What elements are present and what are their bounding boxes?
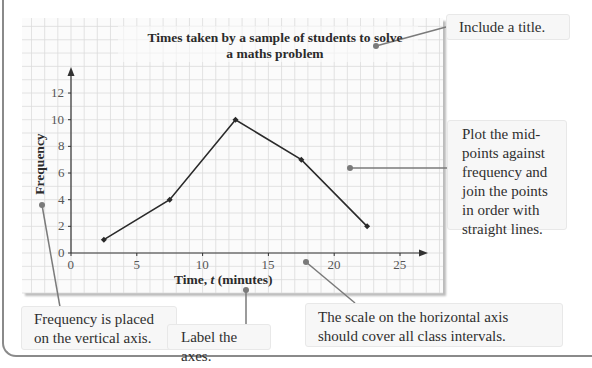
x-tick-label: 10 [196, 257, 209, 273]
pointer-scale-dot [303, 259, 309, 265]
x-label-text: Time, [174, 272, 211, 287]
x-tick-label: 0 [68, 257, 75, 273]
y-tick-label: 6 [58, 165, 65, 181]
y-tick-label: 4 [58, 192, 65, 208]
x-tick-label: 5 [133, 257, 140, 273]
y-tick-label: 10 [51, 112, 64, 128]
note-line: Frequency is placed [34, 310, 176, 329]
note-line: Plot the mid- [462, 125, 566, 144]
note-plot-midpoints: Plot the mid- points against frequency a… [447, 120, 567, 230]
y-tick-label: 0 [58, 245, 65, 261]
y-axis-arrow-icon [68, 67, 75, 76]
note-line: should cover all class intervals. [318, 327, 562, 346]
note-include-title: Include a title. [446, 14, 570, 40]
frequency-polygon-line [104, 120, 367, 240]
note-line: join the points [462, 182, 566, 201]
x-label-units: (minutes) [214, 272, 272, 287]
note-label-axes: Label the axes. [167, 324, 271, 350]
note-horizontal-scale: The scale on the horizontal axis should … [305, 303, 563, 347]
note-line: The scale on the horizontal axis [318, 308, 562, 327]
y-tick-label: 12 [51, 85, 64, 101]
y-axis-label: Frequency [32, 114, 48, 214]
chart-title-line-1: Times taken by a sample of students to s… [130, 30, 420, 46]
x-tick-label: 20 [327, 257, 340, 273]
note-line: straight lines. [462, 220, 566, 239]
note-line: points against [462, 144, 566, 163]
note-text: Include a title. [459, 19, 545, 35]
note-line: frequency and [462, 163, 566, 182]
note-line: in order with [462, 201, 566, 220]
x-tick-label: 15 [262, 257, 275, 273]
note-line: on the vertical axis. [34, 329, 176, 348]
y-tick-label: 8 [58, 138, 65, 154]
chart-title: Times taken by a sample of students to s… [130, 30, 420, 62]
pointer-plot-dot [347, 165, 353, 171]
note-frequency-vertical: Frequency is placed on the vertical axis… [21, 306, 177, 350]
x-tick-label: 25 [393, 257, 406, 273]
x-axis-label: Time, t (minutes) [174, 272, 272, 288]
chart-title-line-2: a maths problem [130, 46, 420, 62]
y-tick-label: 2 [58, 218, 65, 234]
